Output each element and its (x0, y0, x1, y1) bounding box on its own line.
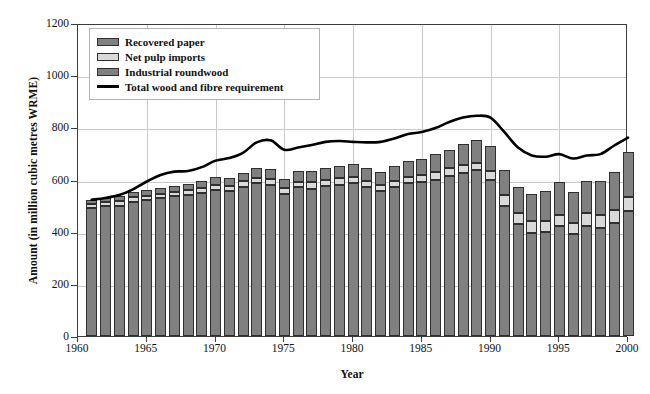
bar-segment[interactable] (320, 168, 331, 180)
bar-segment[interactable] (375, 172, 386, 185)
bar-segment[interactable] (348, 164, 359, 178)
bar-segment[interactable] (224, 178, 235, 186)
bar-segment[interactable] (526, 194, 537, 221)
bar-group[interactable] (361, 23, 372, 336)
bar-segment[interactable] (361, 187, 372, 336)
bar-group[interactable] (348, 23, 359, 336)
bar-segment[interactable] (210, 185, 221, 190)
bar-segment[interactable] (279, 188, 290, 194)
bar-segment[interactable] (100, 198, 111, 202)
bar-segment[interactable] (361, 168, 372, 181)
bar-segment[interactable] (513, 187, 524, 213)
bar-segment[interactable] (86, 204, 97, 208)
bar-segment[interactable] (306, 182, 317, 188)
bar-segment[interactable] (499, 206, 510, 336)
bar-group[interactable] (444, 23, 455, 336)
bar-segment[interactable] (375, 191, 386, 336)
bar-group[interactable] (526, 23, 537, 336)
bar-segment[interactable] (251, 168, 262, 178)
bar-group[interactable] (458, 23, 469, 336)
bar-segment[interactable] (609, 223, 620, 336)
bar-segment[interactable] (430, 180, 441, 337)
bar-segment[interactable] (389, 181, 400, 187)
bar-segment[interactable] (86, 200, 97, 204)
bar-segment[interactable] (389, 166, 400, 180)
bar-segment[interactable] (114, 201, 125, 205)
bar-segment[interactable] (375, 185, 386, 191)
bar-group[interactable] (471, 23, 482, 336)
bar-group[interactable] (403, 23, 414, 336)
bar-segment[interactable] (458, 144, 469, 165)
bar-group[interactable] (485, 23, 496, 336)
bar-segment[interactable] (196, 181, 207, 188)
bar-segment[interactable] (334, 178, 345, 184)
legend-item[interactable]: Total wood and fibre requirement (97, 79, 312, 94)
bar-segment[interactable] (100, 202, 111, 206)
bar-segment[interactable] (403, 183, 414, 336)
bar-segment[interactable] (251, 183, 262, 336)
bar-group[interactable] (609, 23, 620, 336)
bar-segment[interactable] (279, 179, 290, 188)
bar-segment[interactable] (568, 223, 579, 234)
bar-segment[interactable] (348, 183, 359, 336)
bar-group[interactable] (320, 23, 331, 336)
bar-segment[interactable] (595, 181, 606, 215)
bar-segment[interactable] (526, 233, 537, 336)
bar-segment[interactable] (609, 210, 620, 223)
bar-segment[interactable] (320, 186, 331, 336)
bar-segment[interactable] (471, 140, 482, 162)
bar-segment[interactable] (155, 194, 166, 199)
bar-segment[interactable] (141, 200, 152, 336)
bar-segment[interactable] (485, 146, 496, 171)
bar-segment[interactable] (416, 175, 427, 182)
bar-segment[interactable] (155, 198, 166, 336)
bar-group[interactable] (623, 23, 634, 336)
bar-segment[interactable] (540, 191, 551, 221)
bar-segment[interactable] (210, 177, 221, 185)
bar-segment[interactable] (430, 172, 441, 179)
legend-item[interactable]: Industrial roundwood (97, 64, 312, 79)
bar-segment[interactable] (238, 173, 249, 181)
bar-segment[interactable] (265, 179, 276, 185)
bar-segment[interactable] (306, 189, 317, 336)
bar-segment[interactable] (334, 185, 345, 336)
bar-group[interactable] (430, 23, 441, 336)
bar-segment[interactable] (169, 186, 180, 192)
legend-item[interactable]: Net pulp imports (97, 49, 312, 64)
bar-segment[interactable] (554, 215, 565, 226)
bar-segment[interactable] (430, 154, 441, 172)
bar-segment[interactable] (554, 182, 565, 215)
bar-segment[interactable] (334, 166, 345, 179)
bar-segment[interactable] (196, 188, 207, 193)
bar-segment[interactable] (416, 159, 427, 175)
bar-segment[interactable] (155, 188, 166, 194)
bar-segment[interactable] (403, 161, 414, 177)
bar-segment[interactable] (196, 193, 207, 336)
bar-segment[interactable] (100, 206, 111, 336)
bar-segment[interactable] (568, 192, 579, 223)
bar-segment[interactable] (416, 182, 427, 336)
bar-segment[interactable] (169, 196, 180, 336)
bar-segment[interactable] (568, 234, 579, 336)
bar-segment[interactable] (183, 190, 194, 195)
bar-group[interactable] (375, 23, 386, 336)
bar-group[interactable] (595, 23, 606, 336)
bar-group[interactable] (513, 23, 524, 336)
bar-segment[interactable] (238, 181, 249, 187)
bar-segment[interactable] (458, 173, 469, 336)
bar-segment[interactable] (114, 206, 125, 336)
bar-group[interactable] (554, 23, 565, 336)
bar-segment[interactable] (224, 191, 235, 336)
bar-segment[interactable] (361, 181, 372, 187)
bar-segment[interactable] (623, 152, 634, 198)
bar-segment[interactable] (444, 176, 455, 336)
bar-segment[interactable] (389, 187, 400, 336)
bar-segment[interactable] (279, 194, 290, 336)
bar-segment[interactable] (513, 224, 524, 336)
bar-segment[interactable] (320, 180, 331, 186)
bar-segment[interactable] (224, 186, 235, 191)
bar-segment[interactable] (128, 192, 139, 197)
bar-segment[interactable] (183, 195, 194, 336)
bar-group[interactable] (540, 23, 551, 336)
bar-segment[interactable] (293, 171, 304, 182)
